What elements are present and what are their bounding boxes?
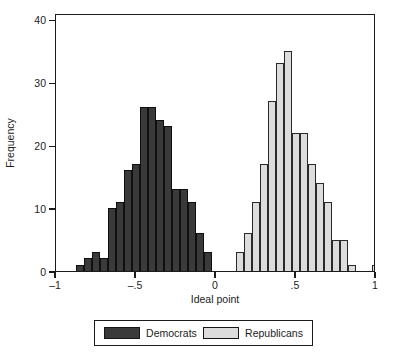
x-tick-label: –1 [49,279,61,291]
x-axis-title: Ideal point [55,293,375,305]
histogram-bar [84,258,92,271]
histogram-bar [324,202,332,271]
histogram-bar [188,202,196,271]
x-tick-label: 1 [372,279,378,291]
histogram-bar [156,120,164,271]
x-tick-mark [54,272,55,278]
legend-label-democrats: Democrats [146,327,197,339]
x-tick-mark [214,272,215,278]
histogram-bar [276,63,284,271]
x-tick-label: .5 [291,279,300,291]
histogram-figure: Frequency 010203040 –1–.50.51 Ideal poin… [0,0,400,359]
histogram-bar [108,208,116,271]
legend-label-republicans: Republicans [245,327,303,339]
histogram-bar [124,170,132,271]
histogram-bar [100,258,108,271]
histogram-bar [92,252,100,271]
histogram-bar [252,202,260,271]
legend-entry-republicans: Republicans [203,327,303,339]
histogram-bar [268,101,276,271]
x-tick-mark [374,272,375,278]
y-tick-label: 20 [34,139,46,153]
histogram-bar [300,133,308,271]
y-tick-label: 0 [40,265,46,279]
y-tick-label: 30 [34,76,46,90]
histogram-bar [292,133,300,271]
y-tick-label: 10 [34,202,46,216]
histogram-bar [204,252,212,271]
histogram-bar [172,189,180,271]
histogram-bar [348,265,356,271]
x-tick-label: 0 [212,279,218,291]
histogram-bar [148,107,156,271]
histogram-bar [164,126,172,271]
histogram-bar [244,233,252,271]
histogram-bar [180,189,188,271]
histogram-bar [76,265,84,271]
legend-swatch-democrats [104,327,140,339]
y-tick-label: 40 [34,13,46,27]
x-tick-mark [134,272,135,278]
legend-entry-democrats: Democrats [104,327,197,339]
chart-legend: Democrats Republicans [94,320,313,346]
x-axis-ticks: –1–.50.51 [55,272,375,294]
legend-swatch-republicans [203,327,239,339]
histogram-bar [140,107,148,271]
histogram-bar [236,252,244,271]
histogram-bar [308,164,316,271]
plot-area [56,15,374,271]
histogram-bar [332,240,340,271]
histogram-bar [132,164,140,271]
x-tick-label: –.5 [128,279,143,291]
histogram-bar [284,51,292,271]
histogram-bar [316,183,324,271]
y-axis-ticks: 010203040 [0,14,55,272]
plot-frame [55,14,375,272]
histogram-bar [196,233,204,271]
x-tick-mark [294,272,295,278]
histogram-bar [340,240,348,271]
histogram-bar [116,202,124,271]
histogram-bar [372,265,374,271]
histogram-bar [260,164,268,271]
